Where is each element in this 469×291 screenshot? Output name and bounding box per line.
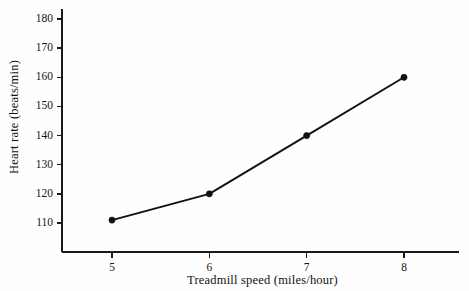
x-tick-label: 7 (304, 262, 310, 274)
x-axis-ticks (112, 252, 404, 258)
x-tick-label: 6 (206, 262, 212, 274)
y-tick-label: 170 (14, 42, 53, 54)
x-tick-label: 5 (109, 262, 115, 274)
data-point-marker (206, 191, 212, 197)
plot-canvas (0, 0, 469, 291)
axes (62, 9, 459, 252)
y-axis-title: Heart rate (beats/min) (7, 60, 22, 174)
y-tick-label: 120 (14, 188, 53, 200)
y-tick-label: 180 (14, 13, 53, 25)
x-axis-title: Treadmill speed (miles/hour) (187, 273, 338, 288)
x-tick-label: 8 (401, 262, 407, 274)
data-point-marker (401, 74, 407, 80)
data-point-marker (304, 132, 310, 138)
series-markers (109, 74, 407, 223)
y-tick-label: 110 (14, 217, 53, 229)
data-point-marker (109, 217, 115, 223)
series-line-heart-rate (112, 77, 404, 220)
heart-rate-line-chart: 110120130140150160170180 5678 Treadmill … (0, 0, 469, 291)
